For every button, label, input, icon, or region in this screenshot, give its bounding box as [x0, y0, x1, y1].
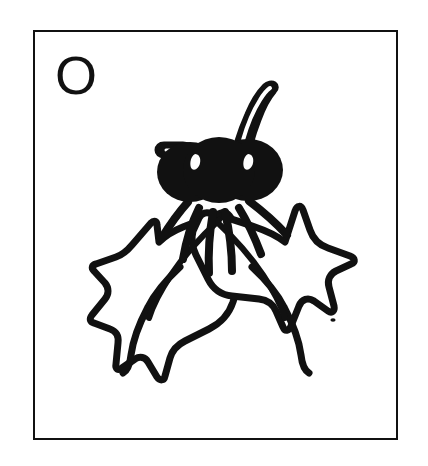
holly-illustration — [33, 30, 398, 440]
ink-speck — [330, 318, 335, 322]
berry-cluster — [157, 137, 283, 203]
flashcard: O — [0, 0, 428, 466]
holly-illustration-svg — [33, 30, 398, 440]
berry-center-mass — [183, 137, 255, 203]
